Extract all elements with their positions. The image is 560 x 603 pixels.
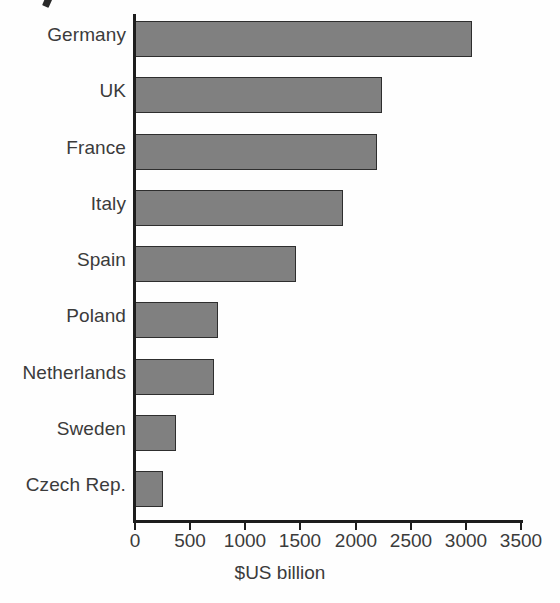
- x-tick-500: [189, 521, 191, 530]
- y-axis-label-france: France: [66, 138, 126, 157]
- y-axis-label-germany: Germany: [47, 25, 126, 44]
- y-axis-label-czech-rep: Czech Rep.: [26, 475, 126, 494]
- x-tick-2000: [355, 521, 357, 530]
- bar-poland: [135, 302, 218, 338]
- bar-uk: [135, 77, 382, 113]
- y-axis-line: [133, 14, 136, 523]
- x-tick-label-0: 0: [130, 531, 141, 550]
- x-tick-label-2500: 2500: [390, 531, 432, 550]
- x-tick-label-500: 500: [174, 531, 206, 550]
- bar-spain: [135, 246, 296, 282]
- x-tick-1500: [299, 521, 301, 530]
- y-axis-label-spain: Spain: [77, 250, 126, 269]
- cropped-title-fragment: [42, 0, 53, 8]
- x-tick-label-3500: 3500: [500, 531, 542, 550]
- bar-germany: [135, 21, 472, 57]
- bar-italy: [135, 190, 343, 226]
- x-tick-label-1000: 1000: [224, 531, 266, 550]
- y-axis-label-netherlands: Netherlands: [22, 363, 126, 382]
- y-axis-label-uk: UK: [99, 81, 126, 100]
- x-axis-title: $US billion: [0, 563, 560, 582]
- y-axis-label-italy: Italy: [91, 194, 126, 213]
- y-axis-label-sweden: Sweden: [57, 419, 126, 438]
- x-tick-2500: [410, 521, 412, 530]
- x-tick-1000: [244, 521, 246, 530]
- bar-czech-rep: [135, 471, 163, 507]
- bar-chart-figure: Germany UK France Italy Spain Poland Net…: [0, 0, 560, 603]
- bar-sweden: [135, 415, 176, 451]
- x-tick-label-1500: 1500: [279, 531, 321, 550]
- x-tick-3000: [465, 521, 467, 530]
- x-tick-3500: [520, 521, 522, 530]
- x-tick-label-3000: 3000: [445, 531, 487, 550]
- bar-netherlands: [135, 359, 214, 395]
- x-tick-0: [134, 521, 136, 530]
- bar-france: [135, 134, 377, 170]
- y-axis-label-poland: Poland: [66, 306, 126, 325]
- x-tick-label-2000: 2000: [335, 531, 377, 550]
